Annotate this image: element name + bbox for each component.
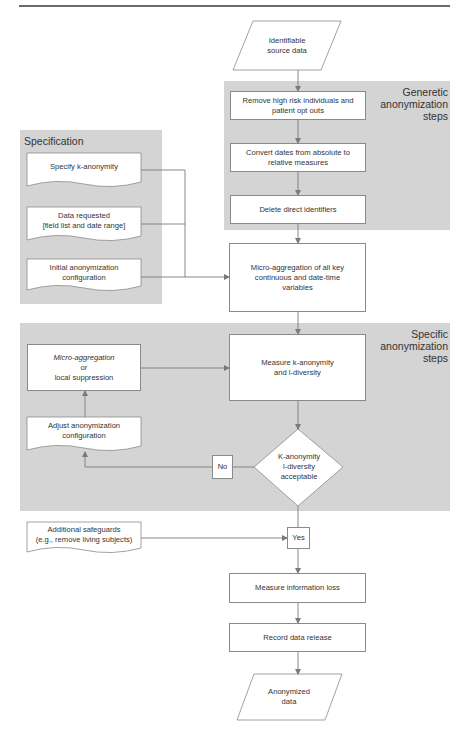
header-rule [19,5,450,7]
convert-dates-node: Convert dates from absolute to relative … [230,143,366,172]
measure-k-l-node: Measure k-anonymity and l-diversity [229,334,366,401]
specific-panel-title: Specific anonymization steps [372,328,448,364]
anonymized-data-node: Anonymized data [245,674,333,720]
decision-node: K-anonymity l-diversity acceptable [264,447,334,487]
local-suppression-line: local suppression [55,373,114,383]
specify-k-node: Specify k-anonymity [27,153,141,181]
adjust-config-node: Adjust anonymization configuration [27,417,141,445]
safeguards-node: Additional safeguards (e.g., remove livi… [27,522,141,548]
data-requested-node: Data requested [field list and date rang… [27,207,141,235]
generic-panel-title: Generetic anonymization steps [372,86,448,122]
delete-identifiers-node: Delete direct identifiers [230,195,366,224]
no-label-box: No [212,455,233,479]
record-data-release-node: Record data release [229,623,366,652]
source-data-node: Identifiable source data [243,21,331,70]
measure-information-loss-node: Measure information loss [229,573,366,603]
remove-high-risk-node: Remove high risk individuals and patient… [230,91,366,120]
initial-config-node: Initial anonymization configuration [27,259,141,286]
or-line: or [81,363,88,373]
specification-panel-title: Specification [24,135,84,147]
micro-aggregation-all-node: Micro-aggregation of all key continuous … [229,243,366,312]
yes-label-box: Yes [287,527,310,549]
micro-aggregation-line: Micro-aggregation [53,353,114,363]
micro-aggregation-or-suppression-node: Micro-aggregation or local suppression [27,344,141,391]
